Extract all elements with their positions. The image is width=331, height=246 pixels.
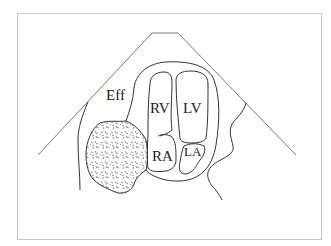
diagram-canvas: Eff RV LV RA LA — [0, 0, 331, 246]
frame-border — [18, 14, 322, 240]
label-right-atrium: RA — [152, 148, 173, 164]
label-left-atrium: LA — [184, 144, 202, 159]
label-right-ventricle: RV — [150, 100, 170, 116]
label-effusion: Eff — [106, 87, 125, 103]
label-left-ventricle: LV — [183, 100, 202, 116]
